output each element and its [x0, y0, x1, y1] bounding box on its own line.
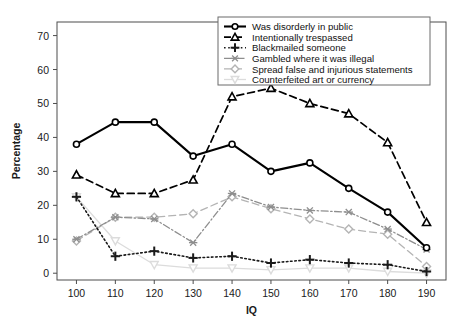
x-tick-label-190: 190 — [418, 287, 436, 299]
y-tick-label-30: 30 — [37, 165, 49, 177]
data-point — [267, 267, 275, 274]
data-point — [228, 93, 236, 100]
series-line — [76, 193, 426, 249]
y-tick-label-70: 70 — [37, 30, 49, 42]
series-line — [76, 122, 426, 248]
legend-item-spread-false-and-injurious-statements[interactable]: Spread false and injurious statements — [224, 64, 413, 75]
y-tick-label-0: 0 — [43, 267, 49, 279]
data-point — [345, 110, 353, 117]
series-line — [76, 197, 426, 273]
data-point — [346, 185, 352, 191]
x-tick-label-150: 150 — [262, 287, 280, 299]
data-point — [111, 238, 119, 245]
legend-label: Blackmailed someone — [252, 42, 346, 53]
data-point — [190, 153, 196, 159]
x-tick-label-170: 170 — [340, 287, 358, 299]
x-tick-label-120: 120 — [145, 287, 163, 299]
legend-label: Gambled where it was illegal — [252, 53, 374, 64]
x-axis-title: IQ — [246, 304, 257, 316]
y-tick-label-10: 10 — [37, 233, 49, 245]
data-point — [307, 160, 313, 166]
data-point — [423, 218, 431, 225]
y-tick-label-40: 40 — [37, 131, 49, 143]
x-tick-label-110: 110 — [107, 287, 124, 299]
chart-container: 010203040506070Percentage100110120130140… — [0, 0, 457, 336]
x-tick-label-130: 130 — [184, 287, 202, 299]
y-axis-title: Percentage — [10, 123, 22, 180]
data-point — [229, 141, 235, 147]
iq-crime-percentage-line-chart: 010203040506070Percentage100110120130140… — [0, 0, 457, 336]
series-line — [76, 88, 426, 222]
series-line — [76, 197, 426, 272]
data-point — [189, 176, 197, 183]
legend-label: Spread false and injurious statements — [252, 64, 413, 75]
legend-label: Counterfeited art or currency — [252, 74, 374, 85]
data-point — [189, 265, 197, 272]
series-line — [76, 197, 426, 267]
legend-label: Intentionally trespassed — [252, 32, 353, 43]
series-was-disorderly-in-public — [73, 119, 429, 251]
data-point — [385, 209, 391, 215]
data-point — [424, 245, 430, 251]
series-gambled-where-it-was-illegal — [72, 190, 431, 252]
data-point — [306, 215, 314, 223]
data-point — [111, 189, 119, 196]
data-point — [112, 119, 118, 125]
data-point — [384, 268, 392, 275]
data-point — [306, 99, 314, 106]
data-point — [73, 141, 79, 147]
legend: Was disorderly in publicIntentionally tr… — [218, 17, 430, 85]
legend-label: Was disorderly in public — [252, 21, 353, 32]
y-tick-label-20: 20 — [37, 199, 49, 211]
x-tick-label-160: 160 — [301, 287, 319, 299]
data-point — [150, 262, 158, 269]
data-point — [189, 210, 197, 218]
x-tick-label-100: 100 — [68, 287, 86, 299]
x-tick-label-140: 140 — [223, 287, 241, 299]
data-point — [150, 189, 158, 196]
data-point — [151, 119, 157, 125]
y-tick-label-60: 60 — [37, 64, 49, 76]
data-point — [268, 168, 274, 174]
x-tick-label-180: 180 — [379, 287, 397, 299]
data-point — [72, 171, 80, 178]
legend-marker — [232, 24, 238, 30]
y-tick-label-50: 50 — [37, 97, 49, 109]
data-point — [228, 265, 236, 272]
data-point — [306, 265, 314, 272]
data-point — [345, 225, 353, 233]
